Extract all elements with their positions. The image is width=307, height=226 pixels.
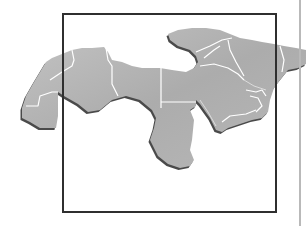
map-frame [62, 13, 277, 213]
map-figure [0, 0, 307, 226]
side-rule [299, 0, 301, 226]
